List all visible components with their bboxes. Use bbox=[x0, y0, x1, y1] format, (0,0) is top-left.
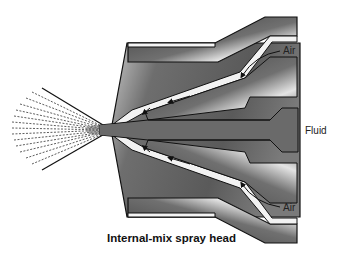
label-fluid: Fluid bbox=[305, 125, 327, 136]
label-air-bottom: Air bbox=[283, 202, 296, 213]
label-air-top: Air bbox=[283, 45, 296, 56]
spray-cone bbox=[12, 88, 108, 170]
spray-head-diagram: Air Air Fluid bbox=[0, 0, 343, 258]
diagram-title: Internal-mix spray head bbox=[0, 232, 343, 244]
